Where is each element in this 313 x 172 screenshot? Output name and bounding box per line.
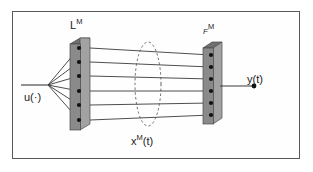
- label-state-x: xM(t): [131, 136, 153, 147]
- left-block-L-M[interactable]: [70, 38, 90, 130]
- node: [209, 101, 213, 105]
- left-block-front-face: [70, 44, 81, 130]
- left-block-side-face: [80, 38, 90, 130]
- label-left-block: LM: [70, 20, 82, 31]
- node: [77, 60, 81, 64]
- node: [77, 46, 81, 50]
- node: [209, 89, 213, 93]
- label-left-block-sup: M: [76, 17, 82, 26]
- state-ellipse-x-M: [135, 42, 161, 126]
- block-diagram-canvas: [0, 0, 313, 172]
- node: [77, 89, 81, 93]
- interconnect-lines: [90, 48, 211, 120]
- node: [209, 53, 213, 57]
- label-state-arg: (t): [143, 135, 153, 147]
- node: [209, 65, 213, 69]
- label-output-y: y(t): [247, 74, 263, 85]
- node: [77, 74, 81, 78]
- label-right-block-sup: M: [208, 22, 214, 31]
- right-block-side-face: [213, 42, 222, 124]
- label-input-u: u(·): [24, 92, 41, 103]
- node: [209, 113, 213, 117]
- node: [209, 77, 213, 81]
- right-block-front-face: [203, 48, 214, 124]
- figure-container: LM FM u(·) xM(t) y(t): [0, 0, 313, 172]
- node: [77, 103, 81, 107]
- node: [77, 118, 81, 122]
- label-right-block: FM: [203, 25, 214, 36]
